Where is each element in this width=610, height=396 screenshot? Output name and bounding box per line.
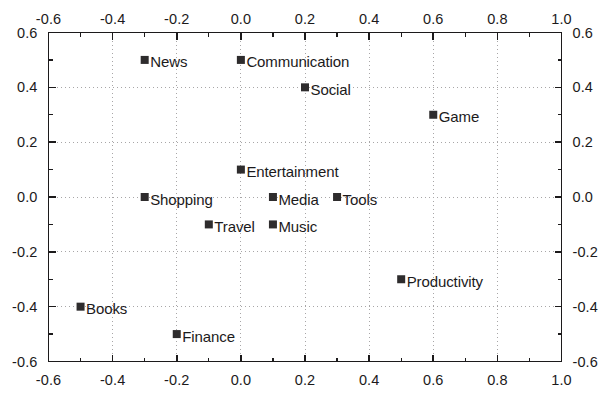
data-point-label: Finance xyxy=(182,328,235,345)
data-point-label: Tools xyxy=(343,191,378,208)
data-point-label: Communication xyxy=(246,53,349,70)
data-point-marker xyxy=(269,220,277,228)
x-tick-label-top: 0.4 xyxy=(359,11,379,27)
x-tick-label-top: 0.0 xyxy=(231,11,251,27)
data-point-label: Books xyxy=(86,300,127,317)
y-tick-label-left: -0.6 xyxy=(12,354,37,370)
x-tick-label-top: 0.8 xyxy=(487,11,507,27)
x-tick-label-bottom: -0.2 xyxy=(164,372,189,388)
x-tick-label-top: 0.2 xyxy=(295,11,315,27)
x-tick-label-bottom: -0.6 xyxy=(36,372,61,388)
data-point: Books xyxy=(77,300,128,317)
data-point: Social xyxy=(301,81,351,98)
data-point-marker xyxy=(269,193,277,201)
x-tick-label-bottom: 0.2 xyxy=(295,372,315,388)
data-point: Music xyxy=(269,218,318,235)
y-tick-label-left: 0.2 xyxy=(17,134,37,150)
y-tick-label-right: 0.2 xyxy=(573,134,593,150)
data-point-marker xyxy=(237,56,245,64)
y-tick-label-right: 0.4 xyxy=(573,79,593,95)
y-tick-label-right: -0.6 xyxy=(573,354,598,370)
y-tick-label-right: 0.0 xyxy=(573,189,593,205)
y-tick-label-left: 0.6 xyxy=(17,25,37,41)
data-point: Media xyxy=(269,191,320,208)
x-tick-label-top: -0.2 xyxy=(164,11,189,27)
y-tick-label-left: 0.0 xyxy=(17,189,37,205)
x-tick-label-bottom: -0.4 xyxy=(100,372,125,388)
y-tick-label-right: 0.6 xyxy=(573,25,593,41)
scatter-plot-figure: -0.6-0.4-0.20.00.20.40.60.81.0-0.6-0.4-0… xyxy=(0,0,610,396)
data-point: Productivity xyxy=(397,273,483,290)
data-point: Shopping xyxy=(141,191,213,208)
data-point-label: Media xyxy=(278,191,319,208)
data-point-label: News xyxy=(150,53,187,70)
y-tick-label-left: -0.4 xyxy=(12,299,37,315)
data-point: Travel xyxy=(205,218,255,235)
data-point-marker xyxy=(301,83,309,91)
y-tick-label-right: -0.2 xyxy=(573,244,598,260)
data-point-marker xyxy=(237,166,245,174)
data-point: Tools xyxy=(333,191,377,208)
x-tick-label-top: 1.0 xyxy=(551,11,571,27)
x-tick-label-bottom: 0.4 xyxy=(359,372,379,388)
data-point-label: Social xyxy=(311,81,351,98)
x-tick-label-bottom: 1.0 xyxy=(551,372,571,388)
data-point-label: Game xyxy=(439,108,479,125)
plot-canvas: -0.6-0.4-0.20.00.20.40.60.81.0-0.6-0.4-0… xyxy=(0,0,610,396)
data-point-marker xyxy=(77,303,85,311)
data-point-label: Music xyxy=(278,218,317,235)
data-point: Finance xyxy=(173,328,235,345)
x-tick-label-top: 0.6 xyxy=(423,11,443,27)
x-tick-label-bottom: 0.0 xyxy=(231,372,251,388)
data-point: Entertainment xyxy=(237,163,340,180)
data-point-label: Entertainment xyxy=(246,163,339,180)
data-point-marker xyxy=(333,193,341,201)
x-tick-label-bottom: 0.6 xyxy=(423,372,443,388)
data-point-label: Shopping xyxy=(150,191,213,208)
data-point: Game xyxy=(429,108,479,125)
data-point-marker xyxy=(429,111,437,119)
data-points-layer: NewsCommunicationSocialGameEntertainment… xyxy=(77,53,484,344)
data-point: Communication xyxy=(237,53,349,70)
x-tick-label-top: -0.4 xyxy=(100,11,125,27)
data-point: News xyxy=(141,53,188,70)
data-point-marker xyxy=(141,193,149,201)
data-point-marker xyxy=(141,56,149,64)
x-tick-label-bottom: 0.8 xyxy=(487,372,507,388)
data-point-label: Travel xyxy=(214,218,255,235)
data-point-marker xyxy=(397,275,405,283)
y-tick-label-right: -0.4 xyxy=(573,299,598,315)
data-point-marker xyxy=(173,330,181,338)
x-tick-label-top: -0.6 xyxy=(36,11,61,27)
y-tick-label-left: -0.2 xyxy=(12,244,37,260)
data-point-marker xyxy=(205,220,213,228)
y-tick-label-left: 0.4 xyxy=(17,79,37,95)
data-point-label: Productivity xyxy=(407,273,484,290)
